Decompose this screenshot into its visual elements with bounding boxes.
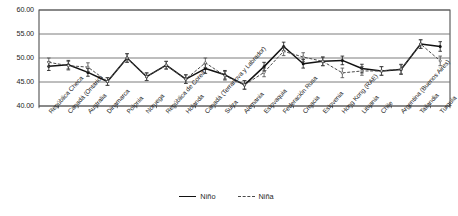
legend-entry-nino: Niño xyxy=(179,192,215,201)
y-axis-tick-label: 55.00 xyxy=(0,29,34,38)
y-axis-tick-label: 40.00 xyxy=(0,101,34,110)
y-axis-tick-label: 50.00 xyxy=(0,53,34,62)
legend-swatch-nina-icon xyxy=(238,196,255,197)
y-axis-tick-label: 60.00 xyxy=(0,5,34,14)
y-axis-tick-label: 45.00 xyxy=(0,77,34,86)
chart-legend: Niño Niña xyxy=(0,192,453,201)
legend-label-nino: Niño xyxy=(200,192,215,201)
legend-entry-nina: Niña xyxy=(238,192,274,201)
legend-swatch-nino-icon xyxy=(179,196,196,197)
legend-label-nina: Niña xyxy=(259,192,274,201)
